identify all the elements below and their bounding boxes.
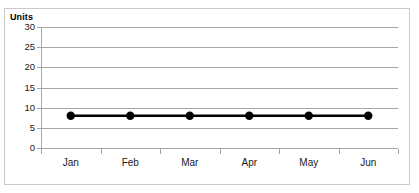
x-axis-tick bbox=[339, 149, 340, 154]
y-axis-tick bbox=[37, 47, 41, 48]
data-point-marker bbox=[67, 112, 75, 120]
y-axis-tick-label: 25 bbox=[9, 42, 35, 52]
y-axis-tick bbox=[37, 128, 41, 129]
x-axis-tick bbox=[279, 149, 280, 154]
y-axis-tick-label: 15 bbox=[9, 83, 35, 93]
y-axis-tick-label: 20 bbox=[9, 62, 35, 72]
y-axis-tick-label: 0 bbox=[9, 143, 35, 153]
data-point-marker bbox=[126, 112, 134, 120]
x-axis-tick-label: Mar bbox=[181, 157, 198, 169]
y-axis-tick bbox=[37, 67, 41, 68]
y-axis-tick-label: 30 bbox=[9, 22, 35, 32]
x-axis-tick bbox=[398, 149, 399, 154]
x-axis-tick bbox=[101, 149, 102, 154]
chart-container: Units 051015202530 JanFebMarAprMayJun bbox=[4, 8, 410, 185]
x-axis-tick-label: Feb bbox=[122, 157, 139, 169]
x-axis-tick bbox=[41, 149, 42, 154]
data-point-marker bbox=[364, 112, 372, 120]
y-axis-tick bbox=[37, 108, 41, 109]
y-axis-tick-label: 5 bbox=[9, 123, 35, 133]
x-axis-tick-label: May bbox=[299, 157, 318, 169]
x-axis-tick-labels: JanFebMarAprMayJun bbox=[41, 157, 398, 173]
x-axis-tick bbox=[220, 149, 221, 154]
x-axis-tick-label: Jan bbox=[63, 157, 79, 169]
data-point-marker bbox=[186, 112, 194, 120]
x-axis-ticks bbox=[41, 149, 398, 155]
x-axis-tick-label: Jun bbox=[360, 157, 376, 169]
x-axis-tick-label: Apr bbox=[241, 157, 257, 169]
y-axis-tick bbox=[37, 88, 41, 89]
y-axis-tick bbox=[37, 27, 41, 28]
series-line-chart bbox=[41, 27, 398, 149]
x-axis-tick bbox=[160, 149, 161, 154]
y-axis-tick-labels: 051015202530 bbox=[5, 9, 35, 186]
data-point-marker bbox=[305, 112, 313, 120]
data-point-marker bbox=[245, 112, 253, 120]
y-axis-tick-label: 10 bbox=[9, 103, 35, 113]
y-axis-tick bbox=[37, 148, 41, 149]
